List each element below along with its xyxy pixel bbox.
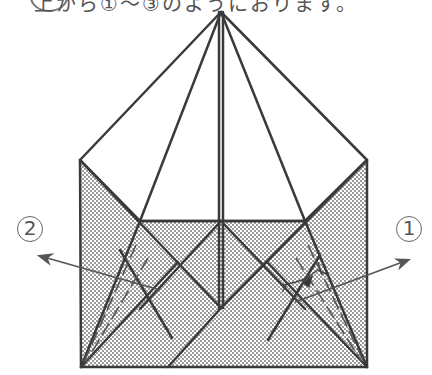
origami-fold-diagram [0, 0, 432, 375]
step-label-1: 1 [396, 216, 422, 242]
step-label-2: 2 [17, 216, 43, 242]
